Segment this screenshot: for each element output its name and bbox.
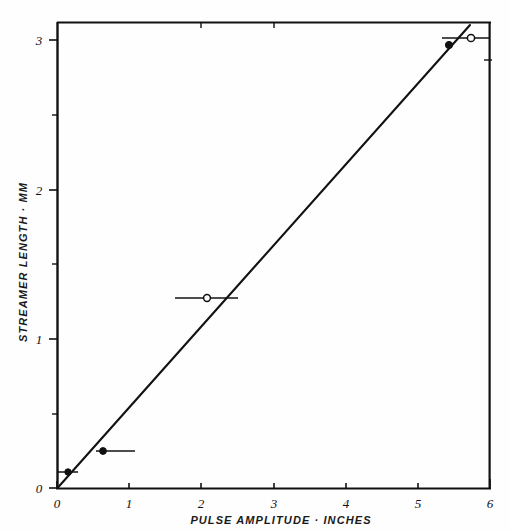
data-point-3 xyxy=(204,295,211,302)
y-tick-label-2: 2 xyxy=(36,183,43,198)
x-tick-label-3: 3 xyxy=(270,496,278,511)
x-tick-label-0: 0 xyxy=(54,496,61,511)
y-axis-title: STREAMER LENGTH · MM xyxy=(17,182,29,342)
y-tick-label-3: 3 xyxy=(35,33,43,48)
plot-frame xyxy=(56,22,491,489)
best-fit-line xyxy=(58,25,471,488)
x-tick-label-6: 6 xyxy=(487,496,494,511)
y-tick-label-0: 0 xyxy=(36,481,43,496)
scatter-plot: 3 2 1 0 0 1 2 3 4 5 6 PULSE AMPLITUDE · … xyxy=(0,0,510,531)
y-tick-label-1: 1 xyxy=(36,332,43,347)
x-axis-title: PULSE AMPLITUDE · INCHES xyxy=(190,514,371,526)
x-tick-label-5: 5 xyxy=(415,496,422,511)
data-point-5 xyxy=(467,34,474,41)
data-points xyxy=(65,34,475,475)
data-point-2 xyxy=(100,448,107,455)
error-bars xyxy=(57,38,490,472)
data-point-4 xyxy=(445,41,452,48)
data-point-1 xyxy=(65,469,71,475)
x-tick-label-4: 4 xyxy=(343,496,350,511)
figure-container: 3 2 1 0 0 1 2 3 4 5 6 PULSE AMPLITUDE · … xyxy=(0,0,510,531)
x-tick-label-1: 1 xyxy=(126,496,133,511)
x-tick-label-2: 2 xyxy=(198,496,205,511)
